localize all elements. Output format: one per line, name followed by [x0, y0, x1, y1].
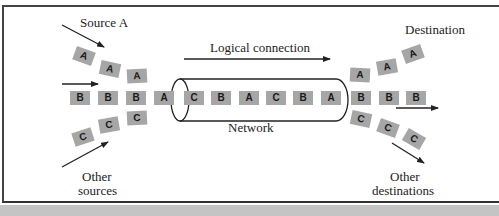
other-sources-label-line2: sources: [78, 183, 117, 198]
packet-destination-b-2: B: [379, 91, 399, 105]
destination-label: Destination: [405, 22, 465, 37]
packet-source-b-2: B: [98, 91, 118, 105]
other-sources-label-line1: Other: [82, 169, 112, 184]
other-sources-arrow: [62, 142, 108, 167]
packet-source-b-3: B: [126, 91, 146, 105]
packet-destination-a-1: A: [350, 67, 371, 82]
packet-network-4: A: [239, 91, 259, 105]
logical-connection-label: Logical connection: [210, 40, 310, 55]
packet-network-3: B: [211, 91, 231, 105]
packet-destination-b-1: B: [351, 91, 371, 105]
network-label: Network: [228, 120, 274, 135]
packet-network-1: A: [154, 91, 174, 105]
packet-destination-b-3: B: [406, 91, 426, 105]
packet-source-b-1: B: [70, 91, 90, 105]
packet-network-5: C: [266, 91, 286, 105]
packet-network-6: B: [293, 91, 313, 105]
packet-source-a-3: A: [127, 68, 148, 83]
packet-other-source-3: C: [127, 110, 148, 125]
other-destinations-label-line1: Other: [390, 169, 420, 184]
packet-network-7: A: [321, 91, 341, 105]
caption-band: [0, 205, 499, 216]
source-a-label: Source A: [80, 15, 128, 30]
other-destinations-label-line2: destinations: [372, 183, 434, 198]
packet-network-2: C: [184, 91, 204, 105]
